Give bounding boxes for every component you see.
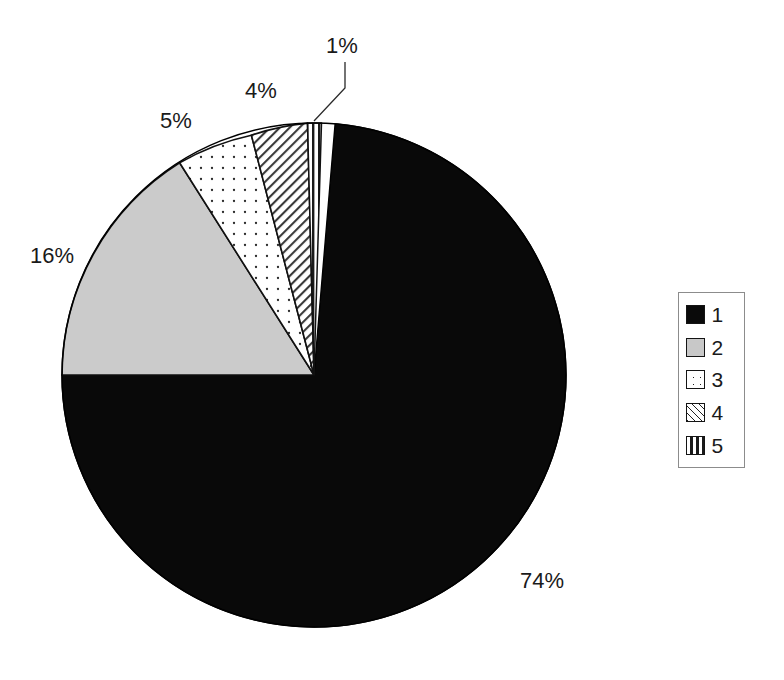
slice-label-5: 5%: [160, 108, 192, 134]
legend-item-3[interactable]: 3: [686, 365, 738, 395]
legend-swatch-vbars-icon: [686, 436, 705, 455]
legend-item-1[interactable]: 1: [686, 299, 738, 329]
legend-item-2[interactable]: 2: [686, 332, 738, 362]
legend-label-2: 2: [712, 337, 724, 358]
legend-label-3: 3: [712, 369, 724, 390]
legend-swatch-dots-icon: [686, 370, 705, 389]
legend-item-4[interactable]: 4: [686, 398, 738, 428]
pie-chart-figure: 74% 16% 5% 4% 1% 1 2 3 4 5: [0, 0, 784, 680]
slice-label-1: 1%: [326, 33, 358, 59]
legend-swatch-hatch-icon: [686, 403, 705, 422]
legend-label-5: 5: [712, 435, 724, 456]
legend-label-1: 1: [712, 304, 724, 325]
legend-label-4: 4: [712, 402, 724, 423]
legend-swatch-solid-black-icon: [686, 305, 705, 324]
slice-label-16: 16%: [30, 243, 74, 269]
legend-item-5[interactable]: 5: [686, 431, 738, 461]
pie-chart-graphic: [0, 0, 784, 680]
chart-legend: 1 2 3 4 5: [678, 292, 745, 468]
legend-swatch-gray-icon: [686, 338, 705, 357]
slice-label-4: 4%: [245, 78, 277, 104]
slice-label-74: 74%: [520, 568, 564, 594]
